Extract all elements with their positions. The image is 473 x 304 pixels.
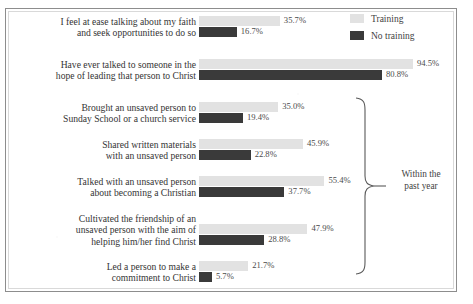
bar-training [199,224,307,234]
bar-value-no-training: 80.8% [386,69,408,79]
table-row: 80.8% [199,70,434,81]
bar-value-training: 21.7% [252,260,274,270]
bar-value-training: 47.9% [311,223,333,233]
table-row: 35.7% [199,16,434,27]
bar-value-no-training: 22.8% [255,149,277,159]
brace-label: Within the past year [390,168,452,192]
category-label: Brought an unsaved person to Sunday Scho… [14,102,196,125]
category-label-line: helping him/her find Christ [14,236,196,247]
category-label-line: Talked with an unsaved person [14,176,196,187]
bar-training [199,176,324,186]
bar-pair: 94.5% 80.8% [199,59,434,81]
brace-label-line: past year [390,180,452,192]
bar-no-training [199,27,237,37]
bar-value-training: 55.4% [328,175,350,185]
bar-value-no-training: 5.7% [216,271,234,281]
bar-value-training: 45.9% [307,138,329,148]
bar-training [199,16,280,26]
bar-training [199,102,278,112]
category-label-line: about becoming a Christian [14,187,196,198]
category-label-line: I feel at ease talking about my faith [14,16,196,27]
category-label-line: Sunday School or a church service [14,113,196,124]
bar-value-training: 35.7% [284,15,306,25]
table-row: 16.7% [199,27,434,38]
category-label-line: and seek opportunities to do so [14,27,196,38]
category-label: Cultivated the friendship of an unsaved … [14,213,196,247]
bar-training [199,139,303,149]
bar-chart: Training No training I feel at ease talk… [0,0,473,304]
category-label-line: Brought an unsaved person to [14,102,196,113]
category-label-line: Shared written materials [14,139,196,150]
category-label-line: Led a person to make a [14,261,196,272]
category-label: Shared written materials with an unsaved… [14,139,196,162]
category-label: Talked with an unsaved person about beco… [14,176,196,199]
category-label-line: Have ever talked to someone in the [14,59,196,70]
bar-no-training [199,272,212,282]
category-label-line: commitment to Christ [14,272,196,283]
bar-no-training [199,235,264,245]
bar-no-training [199,187,284,197]
bar-value-no-training: 19.4% [247,112,269,122]
category-label-line: Cultivated the friendship of an [14,213,196,224]
bar-value-no-training: 28.8% [268,234,290,244]
category-label: Led a person to make a commitment to Chr… [14,261,196,284]
bar-no-training [199,70,382,80]
category-label: I feel at ease talking about my faith an… [14,16,196,39]
bar-training [199,59,413,69]
category-label-line: unsaved person with the aim of [14,224,196,235]
bar-training [199,261,248,271]
category-label: Have ever talked to someone in the hope … [14,59,196,82]
bar-value-training: 94.5% [417,58,439,68]
bar-value-no-training: 37.7% [288,186,310,196]
brace-label-line: Within the [390,168,452,180]
bar-value-training: 35.0% [282,101,304,111]
bar-no-training [199,113,243,123]
bar-value-no-training: 16.7% [241,26,263,36]
bar-pair: 35.7% 16.7% [199,16,434,38]
category-label-line: with an unsaved person [14,150,196,161]
brace-annotation: Within the past year [352,96,452,276]
category-label-line: hope of leading that person to Christ [14,70,196,81]
bar-no-training [199,150,251,160]
